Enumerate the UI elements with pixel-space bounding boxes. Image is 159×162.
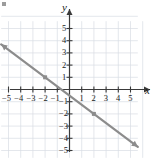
- coordinate-plane: [0, 0, 159, 162]
- y-tick-label: 1: [62, 72, 66, 82]
- x-axis-label: x: [145, 84, 150, 96]
- axes: [10, 9, 150, 152]
- y-tick-label: 4: [62, 35, 66, 45]
- y-tick-label: −2: [59, 108, 68, 118]
- y-tick-label: −5: [59, 145, 68, 155]
- y-tick-label: −1: [59, 96, 68, 106]
- x-tick-label: 5: [128, 93, 132, 103]
- grid-lines: [1, 16, 143, 158]
- y-tick-label: 3: [62, 47, 66, 57]
- x-tick-label: 2: [92, 93, 96, 103]
- x-tick-label: 1: [79, 93, 83, 103]
- x-tick-label: 3: [104, 93, 108, 103]
- y-tick-label: −3: [59, 121, 68, 131]
- x-tick-label: −4: [14, 93, 23, 103]
- y-tick-label: 2: [62, 60, 66, 70]
- y-tick-label: −4: [59, 133, 68, 143]
- y-axis-label: y: [62, 1, 67, 13]
- graph-figure: y x −5−4−3−2−11234554321−1−2−3−4−5: [0, 0, 159, 162]
- x-tick-label: −3: [26, 93, 35, 103]
- y-tick-label: 5: [62, 23, 66, 33]
- x-tick-label: 4: [116, 93, 120, 103]
- x-tick-label: −5: [2, 93, 11, 103]
- x-tick-label: −2: [39, 93, 48, 103]
